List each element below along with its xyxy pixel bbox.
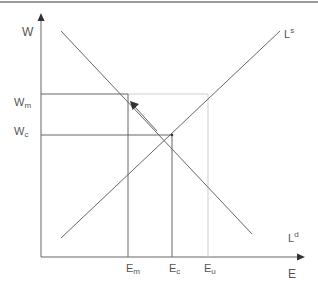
- ec-label-sub: c: [176, 267, 180, 276]
- em-label-sub: m: [133, 267, 140, 276]
- wm-label-main: W: [14, 96, 24, 108]
- y-axis-label: W: [22, 26, 33, 38]
- ls-label: Ls: [284, 27, 294, 40]
- labor-market-diagram: [0, 0, 318, 289]
- x-axis-arrow-icon: [297, 254, 305, 261]
- wm-label: Wm: [14, 97, 31, 110]
- wm-label-sub: m: [24, 101, 31, 110]
- y-axis-arrow-icon: [38, 13, 45, 21]
- wc-label-main: W: [14, 125, 24, 137]
- ls-label-sup: s: [290, 26, 294, 35]
- eu-label: Eu: [204, 263, 216, 276]
- equilibrium-point: [171, 134, 174, 137]
- wc-label: Wc: [14, 126, 28, 139]
- wc-label-sub: c: [24, 130, 28, 139]
- em-label: Em: [126, 263, 140, 276]
- labor-demand-curve: [61, 31, 252, 234]
- ld-label-sup: d: [294, 230, 298, 239]
- eu-label-sub: u: [211, 267, 215, 276]
- ec-label: Ec: [169, 263, 180, 276]
- movement-arrow: [135, 107, 157, 131]
- ld-label: Ld: [288, 231, 299, 244]
- x-axis-title: E: [288, 268, 296, 280]
